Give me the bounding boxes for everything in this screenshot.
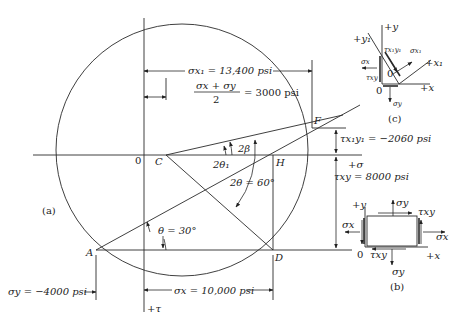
point-d: D: [274, 252, 283, 263]
label-sigma-x1: σx₁ = 13,400 psi: [188, 65, 272, 76]
label-2theta: 2θ = 60°: [229, 177, 275, 188]
label-theta: θ = 30°: [158, 225, 196, 236]
stress-element-b: +y +x 0 σy σy τxy τxy σx σx (b): [342, 197, 449, 292]
panel-label-a: (a): [42, 205, 56, 216]
line-a-f: [96, 105, 360, 250]
svg-text:σy: σy: [392, 266, 405, 277]
point-a: A: [85, 247, 93, 258]
point-origin: 0: [135, 155, 141, 166]
svg-text:τxy: τxy: [366, 74, 379, 82]
svg-text:+y: +y: [384, 21, 398, 32]
label-center-value: = 3000 psi: [244, 87, 299, 98]
svg-text:0: 0: [376, 85, 382, 96]
label-sigma-y: σy = −4000 psi: [8, 286, 87, 297]
point-h: H: [275, 157, 285, 168]
sigma-axis-label: +σ: [348, 159, 364, 170]
stress-element-c: +y +y₁ +x₁ +x τx₁y₁ σx₁ σx τxy σy 0 0 (c…: [353, 21, 443, 124]
panel-label-b: (b): [390, 281, 404, 292]
svg-text:+y: +y: [352, 199, 366, 210]
mohrs-circle: [56, 24, 308, 276]
svg-text:σx: σx: [436, 231, 449, 242]
tau-axis-label: +τ: [147, 303, 161, 314]
point-c: C: [155, 156, 163, 167]
label-tau-x1y1: τx₁y₁ = −2060 psi: [340, 133, 431, 144]
svg-text:σx: σx: [361, 58, 370, 66]
label-tau-xy: τxy = 8000 psi: [334, 171, 409, 182]
svg-text:+y₁: +y₁: [353, 33, 371, 44]
mohrs-circle-figure: σx₁ = 13,400 psi σx + σy 2 = 3000 psi τx…: [0, 0, 460, 327]
label-center-denominator: 2: [213, 94, 219, 105]
svg-text:σy: σy: [393, 100, 403, 108]
svg-text:σx₁: σx₁: [410, 47, 422, 55]
point-f: F: [313, 115, 322, 126]
svg-text:τxy: τxy: [418, 206, 435, 217]
label-2beta: 2β: [237, 143, 250, 154]
svg-text:σx: σx: [342, 219, 355, 230]
svg-text:+x: +x: [420, 82, 434, 93]
label-2theta1: 2θ₁: [212, 159, 229, 170]
label-center-numerator: σx + σy: [196, 80, 236, 91]
svg-text:τx₁y₁: τx₁y₁: [384, 46, 402, 54]
panel-label-c: (c): [388, 113, 402, 124]
svg-text:0: 0: [387, 68, 393, 79]
svg-text:σy: σy: [396, 197, 409, 208]
label-sigma-x: σx = 10,000 psi: [174, 285, 254, 296]
svg-text:0: 0: [357, 249, 363, 260]
svg-text:+x: +x: [426, 250, 440, 261]
arc-2beta: [230, 142, 232, 155]
svg-text:+x₁: +x₁: [425, 57, 443, 68]
svg-text:τxy: τxy: [370, 249, 387, 260]
